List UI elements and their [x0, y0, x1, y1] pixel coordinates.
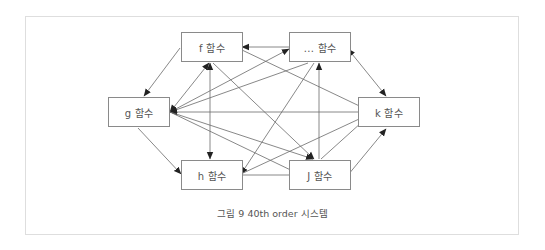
node-h: h 함수 — [181, 160, 243, 190]
node-j-label: J 함수 — [307, 168, 332, 183]
node-k-label: k 함수 — [375, 105, 403, 120]
node-g: g 함수 — [108, 97, 170, 127]
edge-dots-k — [348, 49, 386, 96]
edge-j-k — [348, 129, 386, 175]
edge-f-g — [144, 48, 180, 96]
figure-caption: 그림 9 40th order 시스템 — [0, 206, 545, 220]
edge-g-h — [138, 128, 181, 174]
node-f: f 함수 — [181, 32, 243, 62]
node-k: k 함수 — [358, 97, 420, 127]
node-g-label: g 함수 — [125, 105, 154, 120]
node-f-label: f 함수 — [199, 40, 225, 55]
node-dots: ... 함수 — [289, 32, 351, 62]
edge-g-j-top — [170, 112, 313, 159]
node-h-label: h 함수 — [198, 168, 227, 183]
node-j: J 함수 — [289, 160, 351, 190]
node-dots-label: ... 함수 — [304, 40, 337, 55]
edge-g-f — [170, 63, 209, 112]
